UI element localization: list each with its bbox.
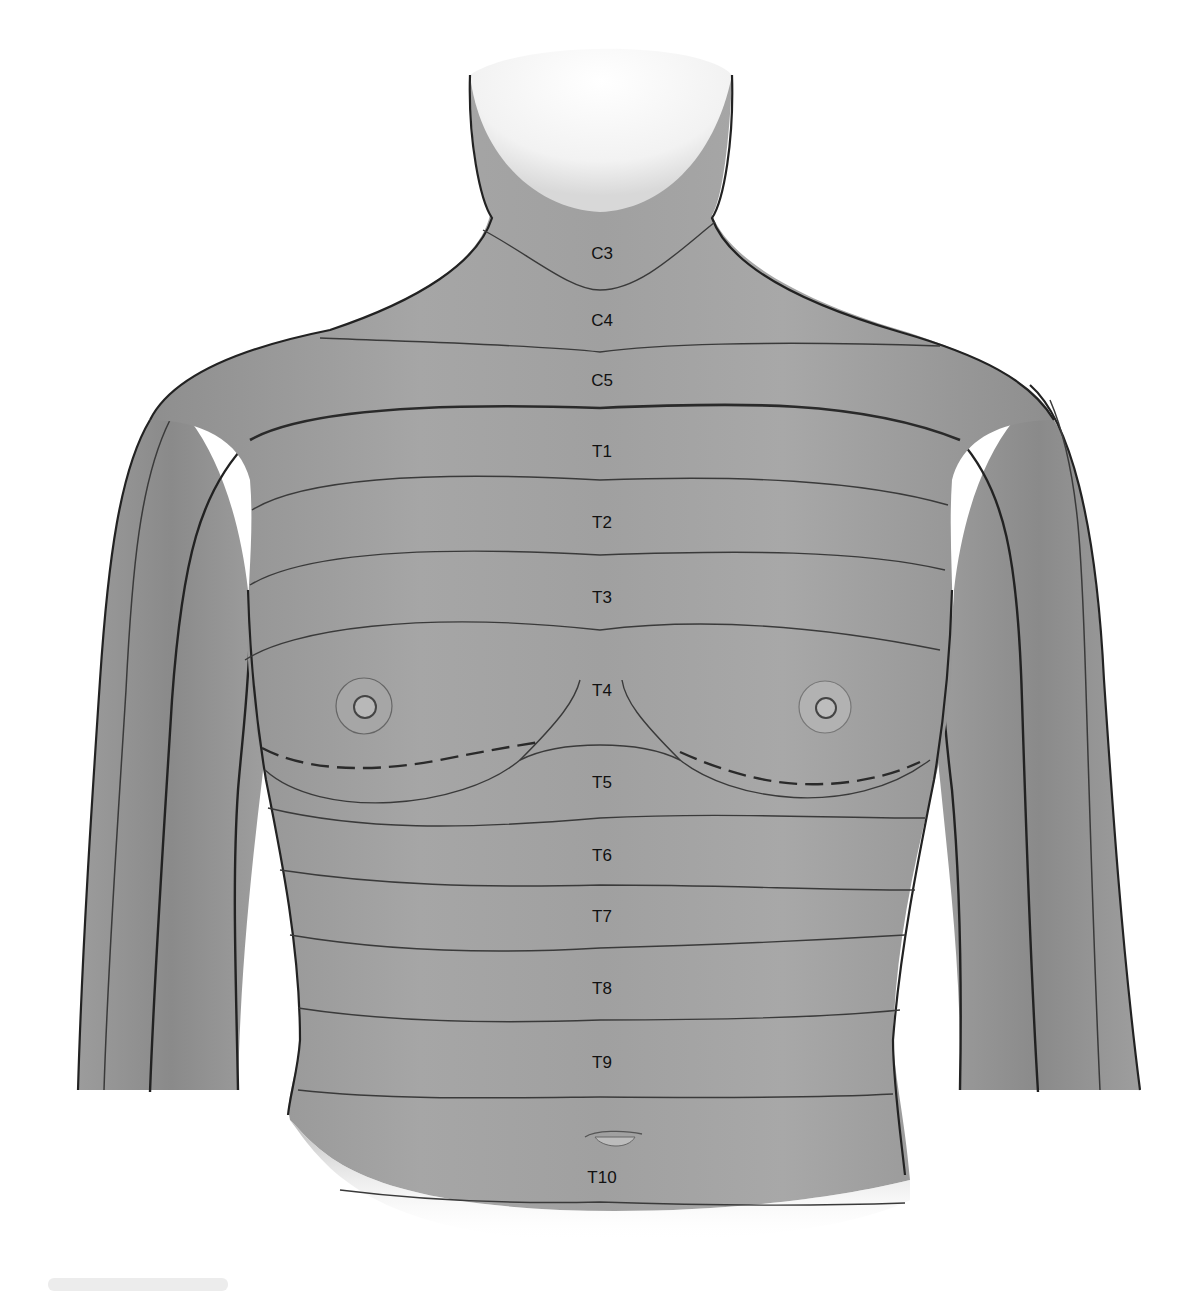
left-nipple-icon [336,678,392,734]
label-c3: C3 [591,244,613,263]
left-arm [78,420,264,1092]
label-t2: T2 [592,513,612,532]
label-t1: T1 [592,442,612,461]
label-c4: C4 [591,311,613,330]
label-t8: T8 [592,979,612,998]
right-nipple-icon [799,681,851,733]
dermatome-diagram: C3 C4 C5 T1 T2 T3 T4 T5 T6 T7 T8 T9 T10 [0,0,1204,1291]
label-t5: T5 [592,773,612,792]
page-edge-strip [48,1278,228,1291]
label-t10: T10 [587,1168,616,1187]
label-c5: C5 [591,371,613,390]
right-arm [938,385,1140,1092]
label-t9: T9 [592,1053,612,1072]
label-t7: T7 [592,907,612,926]
label-t6: T6 [592,846,612,865]
label-t4: T4 [592,681,612,700]
label-t3: T3 [592,588,612,607]
